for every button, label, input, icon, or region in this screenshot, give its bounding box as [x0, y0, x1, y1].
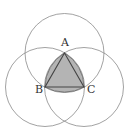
- label-c: C: [87, 83, 95, 96]
- label-a: A: [60, 36, 70, 49]
- shaded-reuleaux-region: [45, 53, 84, 92]
- reuleaux-triangle-diagram: A B C: [0, 0, 130, 133]
- label-b: B: [35, 83, 43, 96]
